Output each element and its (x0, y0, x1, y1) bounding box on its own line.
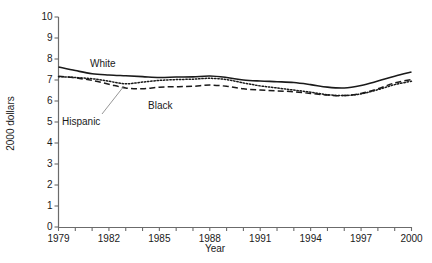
series-label-black: Black (148, 100, 172, 111)
x-axis-title: Year (195, 243, 235, 254)
y-tick-label: 6 (31, 96, 53, 106)
axes (59, 17, 412, 228)
annotation-leader-lines (102, 86, 124, 114)
data-series-group (59, 67, 412, 96)
y-tick-label: 4 (31, 138, 53, 148)
y-tick-label: 1 (31, 201, 53, 211)
chart-plot-area (0, 0, 432, 263)
x-tick-label: 1994 (291, 234, 331, 244)
chart-figure: 012345678910 197919821985198819911994199… (0, 0, 432, 263)
series-label-white: White (90, 58, 116, 69)
x-tick-label: 1985 (139, 234, 179, 244)
y-tick-label: 3 (31, 159, 53, 169)
x-tick-label: 1991 (240, 234, 280, 244)
x-tick-label: 1982 (89, 234, 129, 244)
x-tick-label: 1979 (39, 234, 79, 244)
series-line-white (59, 67, 412, 88)
y-tick-label: 7 (31, 75, 53, 85)
y-tick-label: 0 (31, 222, 53, 232)
y-tick-label: 8 (31, 54, 53, 64)
y-tick-label: 2 (31, 180, 53, 190)
y-tick-label: 5 (31, 117, 53, 127)
x-tick-label: 2000 (392, 234, 432, 244)
hispanic-leader-line (102, 86, 124, 114)
y-tick-label: 10 (31, 12, 53, 22)
y-tick-label: 9 (31, 33, 53, 43)
x-tick-label: 1997 (341, 234, 381, 244)
series-label-hispanic: Hispanic (62, 116, 100, 127)
y-axis-title: 2000 dollars (5, 88, 16, 160)
